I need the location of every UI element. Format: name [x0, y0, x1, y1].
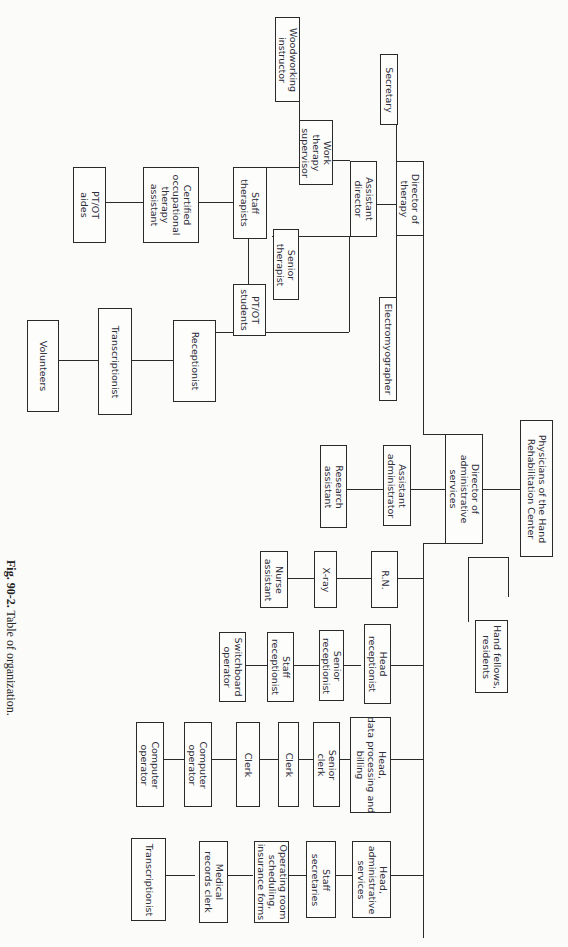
- node-label: Senior receptionist: [321, 637, 343, 693]
- node-computer-operator-2: Computer operator: [184, 722, 212, 807]
- connector: [481, 489, 521, 490]
- connector: [468, 557, 469, 622]
- connector: [343, 665, 361, 666]
- node-label: Clerk: [283, 752, 294, 777]
- connector: [390, 875, 423, 876]
- connector: [468, 557, 508, 558]
- node-director-therapy: Director of therapy: [396, 161, 424, 236]
- node-work-therapy-supervisor: Work therapy supervisor: [299, 120, 333, 185]
- connector: [410, 489, 445, 490]
- node-label: Operating room scheduling, insurance for…: [255, 844, 288, 921]
- node-clerk-2: Clerk: [278, 722, 299, 807]
- node-label: Nurse assistant: [263, 558, 285, 601]
- connector: [227, 875, 253, 876]
- node-secretary: Secretary: [380, 54, 398, 125]
- connector: [211, 759, 237, 760]
- node-label: Head receptionist: [367, 636, 389, 692]
- connector: [288, 875, 307, 876]
- node-medical-records-clerk: Medical records clerk: [199, 841, 228, 923]
- connector: [423, 236, 424, 434]
- node-woodworking-instructor: Woodworking instructor: [275, 17, 300, 102]
- connector: [397, 578, 423, 579]
- node-clerk-1: Clerk: [236, 722, 260, 807]
- connector: [248, 238, 249, 285]
- connector: [423, 543, 445, 544]
- node-label: Staff receptionist: [270, 639, 292, 695]
- node-head-receptionist: Head receptionist: [364, 624, 391, 704]
- node-staff-therapists: Staff therapists: [233, 167, 267, 239]
- node-label: Computer operator: [187, 741, 209, 788]
- node-switchboard-operator: Switchboard operator: [219, 632, 246, 702]
- node-receptionist: Receptionist: [173, 320, 216, 402]
- node-head-data-processing: Head, data processing and billing: [350, 717, 391, 813]
- node-label: Clerk: [243, 752, 254, 777]
- connector: [259, 759, 278, 760]
- node-label: Physicians of the Hand Rehabilitation Ce…: [526, 434, 548, 542]
- connector: [245, 665, 267, 666]
- node-label: Woodworking instructor: [277, 27, 299, 91]
- node-head-admin-services: Head, administrative services: [352, 841, 391, 918]
- node-label: Work therapy supervisor: [300, 128, 333, 178]
- node-label: Electromyographer: [383, 303, 394, 394]
- connector: [198, 202, 234, 203]
- node-physicians: Physicians of the Hand Rehabilitation Ce…: [520, 420, 553, 557]
- node-label: Volunteers: [38, 341, 49, 392]
- node-xray: X-ray: [314, 551, 337, 608]
- connector: [508, 557, 509, 597]
- connector: [349, 236, 350, 332]
- node-assistant-administrator: Assistant administrator: [383, 445, 411, 526]
- connector: [423, 543, 424, 938]
- node-nurse-assistant: Nurse assistant: [260, 551, 288, 608]
- connector: [335, 875, 353, 876]
- node-rn: R.N.: [371, 551, 398, 608]
- connector: [346, 489, 384, 490]
- node-label: R.N.: [379, 570, 390, 589]
- node-cota: Certified occupational therapy assistant: [143, 167, 199, 243]
- node-senior-receptionist: Senior receptionist: [319, 630, 344, 701]
- node-senior-therapist: Senior therapist: [273, 229, 299, 300]
- node-staff-secretaries: Staff secretaries: [306, 841, 336, 918]
- connector: [376, 204, 396, 205]
- node-label: X-ray: [320, 567, 331, 592]
- node-label: Director of administrative services: [448, 455, 481, 524]
- connector: [266, 167, 300, 168]
- connector: [165, 875, 195, 876]
- connector: [298, 759, 314, 760]
- node-electromyographer: Electromyographer: [379, 297, 397, 401]
- node-pt-ot-students: PT/OT students: [233, 284, 266, 336]
- connector: [390, 665, 423, 666]
- node-label: Medical records clerk: [203, 851, 225, 912]
- connector: [293, 665, 319, 666]
- connector: [390, 759, 423, 760]
- node-label: Staff therapists: [239, 179, 261, 227]
- caption-text: Table of organization.: [4, 608, 18, 716]
- node-operating-room: Operating room scheduling, insurance for…: [254, 841, 289, 923]
- node-staff-receptionist: Staff receptionist: [267, 632, 294, 702]
- connector: [423, 434, 445, 435]
- node-label: Staff secretaries: [310, 853, 332, 905]
- node-label: PT/OT aides: [79, 191, 101, 219]
- node-label: Certified occupational therapy assistant: [149, 175, 193, 236]
- node-label: Computer operator: [139, 741, 161, 788]
- connector: [163, 759, 184, 760]
- node-label: Transcriptionist: [143, 843, 154, 915]
- caption-label: Fig. 90-2.: [4, 560, 18, 608]
- node-label: Senior therapist: [275, 243, 297, 286]
- node-research-assistant: Research assistant: [320, 445, 347, 528]
- node-label: Switchboard operator: [222, 638, 244, 697]
- connector: [105, 202, 143, 203]
- node-label: Transcriptionist: [110, 325, 121, 397]
- node-hand-fellows: Hand fellows, residents: [475, 620, 508, 693]
- node-label: Head, administrative services: [355, 845, 388, 914]
- org-chart: Physicians of the Hand Rehabilitation Ce…: [0, 0, 568, 947]
- node-label: PT/OT students: [239, 289, 261, 330]
- connector: [332, 160, 350, 161]
- node-label: Assistant administrator: [386, 453, 408, 517]
- node-label: Receptionist: [189, 332, 200, 391]
- node-label: Secretary: [384, 67, 395, 113]
- node-label: Senior clerk: [316, 749, 338, 779]
- node-senior-clerk: Senior clerk: [313, 722, 340, 807]
- node-computer-operator-1: Computer operator: [136, 722, 164, 807]
- node-label: Head, data processing and billing: [354, 717, 387, 814]
- figure-caption: Fig. 90-2. Table of organization.: [3, 560, 18, 716]
